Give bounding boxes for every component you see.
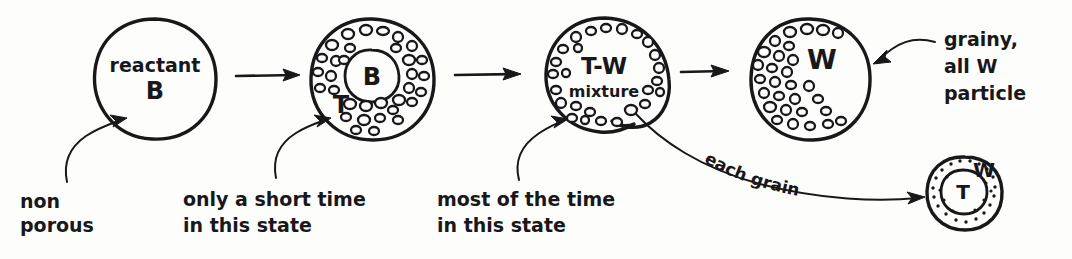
annotation-non-porous-line-2: porous [20,214,94,236]
annotation-non-porous: non porous [20,190,94,236]
stage-2-shell-label: T [333,91,350,119]
annotation-grainy-all-w: grainy, all W particle [944,28,1026,104]
annotation-grainy-all-w-line-2: all W [944,55,997,77]
annotation-grainy-all-w-line-1: grainy, [944,28,1018,50]
annotation-grainy-all-w-line-3: particle [944,82,1026,104]
arrow-stage3-to-stage4 [681,65,729,77]
stage-3-particle: T-W mixture [546,18,669,132]
annotation-short-time: only a short time in this state [183,188,366,236]
leader-short-time [275,115,331,178]
stage-1-title-line2: B [146,77,164,105]
annotation-most-time: most of the time in this state [437,188,615,236]
annotation-most-time-line-2: in this state [437,214,566,236]
stage-3-title-line1: T-W [581,53,627,79]
stage-3-title-line2: mixture [569,82,639,101]
annotation-short-time-line-2: in this state [183,214,312,236]
leader-most-time [518,116,568,180]
leader-grainy-all-w [873,40,935,64]
inset-inner-label: T [956,180,970,204]
inset-outer-label: W [973,158,995,182]
stage-4-title-line1: W [807,44,837,75]
arrow-stage1-to-stage2 [236,69,300,81]
stage-2-particle: B T [311,19,434,140]
annotation-most-time-line-1: most of the time [437,188,615,210]
diagram-canvas: reactant B [0,0,1072,259]
hand-drawn-diagram: reactant B [0,0,1072,259]
stage-2-core-label: B [363,63,381,91]
annotation-non-porous-line-1: non [20,190,60,212]
stage-1-title-line1: reactant [110,54,201,76]
annotation-short-time-line-1: only a short time [183,188,366,210]
each-grain-caption: each grain [701,148,801,200]
inset-grain-detail: T W [927,157,1002,230]
stage-4-particle: W [751,19,870,140]
stage-1-particle: reactant B [95,19,216,139]
arrow-stage2-to-stage3 [455,68,521,80]
stage-4-grains [753,24,846,130]
